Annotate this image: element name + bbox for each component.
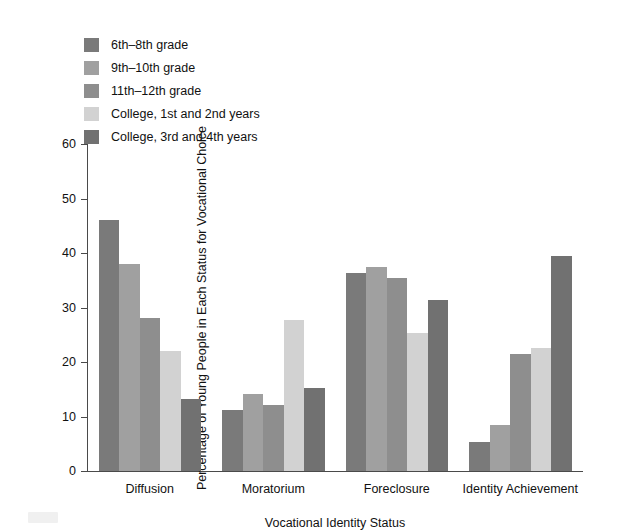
legend-item-label: College, 1st and 2nd years [111,107,260,121]
bar [531,348,552,471]
bar [140,318,161,471]
y-axis-tick-label: 20 [62,355,76,369]
legend-swatch-icon [84,61,99,75]
y-axis-tick: 0 [81,471,88,472]
bar [181,399,202,471]
bar [284,320,305,472]
bar [490,425,511,471]
legend-item: 6th–8th grade [84,34,384,55]
bar-group [469,144,572,471]
scan-artifact [28,512,58,523]
bars-container [88,144,582,471]
y-axis-tick-label: 10 [62,410,76,424]
bar [366,267,387,471]
legend-item-label: 6th–8th grade [111,38,188,52]
bar-group [99,144,202,471]
legend-item-label: 11th–12th grade [111,84,201,98]
x-axis-group-label: Moratorium [242,482,305,496]
bar [160,351,181,471]
y-axis-tick-label: 60 [62,137,76,151]
bar-group [346,144,449,471]
bar [428,300,449,471]
legend-item: 11th–12th grade [84,80,384,101]
y-axis-tick: 30 [81,308,88,309]
legend-item-label: 9th–10th grade [111,61,195,75]
y-axis-tick: 10 [81,417,88,418]
legend-swatch-icon [84,38,99,52]
legend-item-label: College, 3rd and 4th years [111,130,258,144]
bar [346,273,367,471]
y-axis-tick-label: 50 [62,192,76,206]
bar [243,394,264,471]
x-axis-title: Vocational Identity Status [88,516,582,530]
y-axis-tick-label: 30 [62,301,76,315]
bar-group [222,144,325,471]
x-axis-group-label: Foreclosure [364,482,430,496]
legend-swatch-icon [84,107,99,121]
bar [407,333,428,471]
bar [469,442,490,471]
legend-item: 9th–10th grade [84,57,384,78]
bar [551,256,572,471]
bar [222,410,243,471]
legend-swatch-icon [84,84,99,98]
x-axis-group-label: Identity Achievement [463,482,578,496]
bar [263,405,284,471]
x-axis-line [87,471,583,472]
y-axis-tick: 20 [81,362,88,363]
bar [510,354,531,471]
chart-legend: 6th–8th grade9th–10th grade11th–12th gra… [84,34,384,149]
legend-swatch-icon [84,130,99,144]
y-axis-tick-label: 0 [69,464,76,478]
bar [304,388,325,471]
bar [387,278,408,471]
bar [99,220,120,471]
legend-item: College, 1st and 2nd years [84,103,384,124]
plot-area: 0102030405060 Percentage of Young People… [88,144,582,471]
bar-chart: 6th–8th grade9th–10th grade11th–12th gra… [0,0,636,531]
bar [119,264,140,471]
x-axis-group-label: Diffusion [126,482,174,496]
y-axis-tick: 50 [81,199,88,200]
y-axis-tick: 40 [81,253,88,254]
y-axis-tick-label: 40 [62,246,76,260]
y-axis-tick: 60 [81,144,88,145]
